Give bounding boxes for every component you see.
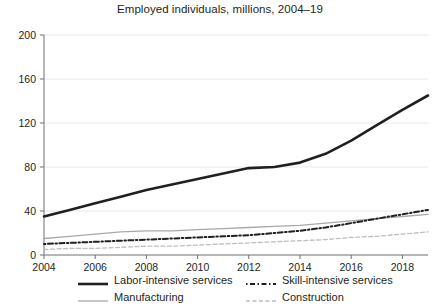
legend-item-skill-intensive-services[interactable]: Skill-intensive services [246, 274, 418, 286]
light-gray-dashed-line-icon [246, 292, 276, 302]
y-tick-label: 0 [30, 249, 36, 261]
data-series-group [44, 96, 428, 250]
thick-black-solid-line-icon [78, 275, 108, 285]
x-tick-group [44, 255, 402, 259]
x-tick-label: 2004 [32, 261, 56, 273]
legend-label: Labor-intensive services [114, 274, 233, 286]
series-line-labor-intensive-services [44, 96, 428, 217]
legend-item-manufacturing[interactable]: Manufacturing [78, 291, 246, 303]
line-chart-plot: 04080120160200 2004200620082010201220142… [0, 0, 440, 307]
y-tick-label: 200 [18, 29, 36, 41]
series-line-skill-intensive-services [44, 210, 428, 244]
legend-item-labor-intensive-services[interactable]: Labor-intensive services [78, 274, 246, 286]
thin-gray-solid-line-icon [78, 292, 108, 302]
y-tick-group [40, 35, 44, 255]
y-tick-label: 40 [24, 205, 36, 217]
legend-item-construction[interactable]: Construction [246, 291, 418, 303]
y-tick-label: 80 [24, 161, 36, 173]
legend-label: Construction [282, 291, 344, 303]
chart-legend: Labor-intensive services Skill-intensive… [78, 271, 418, 305]
black-dash-dot-line-icon [246, 275, 276, 285]
chart-container: Employed individuals, millions, 2004–19 … [0, 0, 440, 307]
gridlines-group [44, 35, 428, 211]
y-tick-label: 160 [18, 73, 36, 85]
legend-label: Manufacturing [114, 291, 184, 303]
y-tick-label-group: 04080120160200 [18, 29, 36, 261]
legend-label: Skill-intensive services [282, 274, 393, 286]
y-tick-label: 120 [18, 117, 36, 129]
